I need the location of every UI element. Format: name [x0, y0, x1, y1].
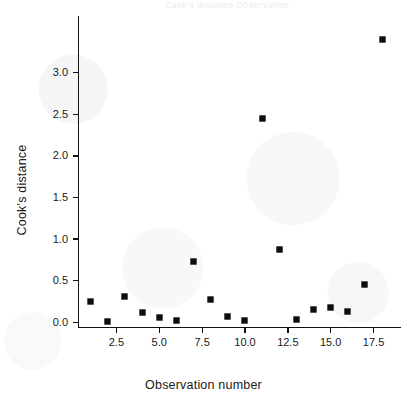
x-axis-tick-label: 10.0 — [225, 337, 265, 348]
y-axis-tick-label: 1.0 — [53, 234, 68, 245]
data-point — [328, 305, 333, 310]
x-axis-tick — [287, 328, 288, 333]
x-axis-tick — [159, 328, 160, 333]
data-point — [88, 299, 93, 304]
x-axis-tick-label: 2.5 — [96, 337, 136, 348]
y-axis-tick-label: 1.5 — [53, 192, 68, 203]
data-point — [122, 294, 127, 299]
y-axis-tick — [73, 322, 78, 323]
x-axis-tick-label: 17.5 — [354, 337, 394, 348]
data-point — [311, 307, 316, 312]
x-axis-label: Observation number — [0, 378, 407, 392]
data-point — [105, 319, 110, 324]
x-axis-tick — [330, 328, 331, 333]
data-point — [208, 297, 213, 302]
x-axis-line — [78, 327, 401, 328]
x-axis-tick-label: 15.0 — [311, 337, 351, 348]
data-point — [140, 310, 145, 315]
cooks-distance-scatter-figure: Cook's distance Observation 0.00.51.01.5… — [0, 0, 407, 406]
y-axis-tick — [73, 197, 78, 198]
plot-area: 0.00.51.01.52.02.53.0 2.55.07.510.012.51… — [0, 0, 407, 406]
y-axis-tick — [73, 238, 78, 239]
y-axis-tick-label: 0.5 — [53, 275, 68, 286]
data-point — [345, 309, 350, 314]
y-axis-tick — [73, 155, 78, 156]
y-axis-tick — [73, 72, 78, 73]
data-point — [191, 259, 196, 264]
x-axis-tick-label: 7.5 — [182, 337, 222, 348]
data-point — [260, 116, 265, 121]
y-axis-line — [78, 16, 79, 327]
y-axis-tick — [73, 280, 78, 281]
y-axis-tick-label: 0.0 — [53, 317, 68, 328]
x-axis-tick — [244, 328, 245, 333]
x-axis-tick-label: 12.5 — [268, 337, 308, 348]
y-axis-tick — [73, 114, 78, 115]
data-point — [242, 318, 247, 323]
x-axis-tick — [202, 328, 203, 333]
data-point — [225, 314, 230, 319]
data-point — [380, 37, 385, 42]
y-axis-tick-label: 2.5 — [53, 109, 68, 120]
y-axis-tick-label: 2.0 — [53, 150, 68, 161]
data-point — [157, 315, 162, 320]
y-axis-label: Cook's distance — [15, 120, 29, 260]
x-axis-tick — [373, 328, 374, 333]
data-point — [277, 247, 282, 252]
data-point — [174, 318, 179, 323]
y-axis-tick-label: 3.0 — [53, 67, 68, 78]
data-point — [362, 282, 367, 287]
x-axis-tick-label: 5.0 — [139, 337, 179, 348]
x-axis-tick — [116, 328, 117, 333]
data-point — [294, 317, 299, 322]
